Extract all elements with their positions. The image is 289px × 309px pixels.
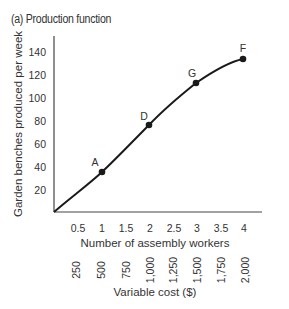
cost-tick: 1,250 <box>167 257 179 283</box>
production-curve <box>54 59 243 212</box>
x-tick: 4 <box>241 222 247 234</box>
cost-tick: 2,000 <box>239 257 251 283</box>
point-f-marker <box>240 56 247 63</box>
y-tick: 60 <box>34 138 46 150</box>
y-tick: 140 <box>28 46 46 58</box>
x-tick: 0.5 <box>71 222 86 234</box>
point-f-label: F <box>240 42 246 54</box>
variable-cost-tick-labels: 250 500 750 1,000 1,250 1,500 1,750 2,00… <box>70 257 251 283</box>
point-g-marker <box>193 80 200 87</box>
y-tick: 80 <box>34 115 46 127</box>
secondary-x-axis-label: Variable cost ($) <box>114 286 197 298</box>
point-g-label: G <box>188 67 196 79</box>
x-tick: 1.5 <box>119 222 134 234</box>
x-tick: 1 <box>99 222 105 234</box>
y-tick: 20 <box>34 184 46 196</box>
y-axis-label: Garden benches produced per week <box>12 31 24 217</box>
cost-tick: 250 <box>70 261 82 279</box>
x-axis-label: Number of assembly workers <box>81 237 230 249</box>
cost-tick: 750 <box>120 261 132 279</box>
cost-tick: 1,000 <box>144 257 156 283</box>
cost-tick: 500 <box>95 261 107 279</box>
x-tick: 2.5 <box>167 222 182 234</box>
y-tick: 40 <box>34 161 46 173</box>
x-tick: 3.5 <box>214 222 229 234</box>
point-d-marker <box>146 122 153 129</box>
y-tick-labels: 20 40 60 80 100 120 140 <box>28 46 46 196</box>
x-tick: 2 <box>147 222 153 234</box>
point-a-marker <box>99 169 106 176</box>
x-tick-labels: 0.5 1 1.5 2 2.5 3 3.5 4 <box>71 222 247 234</box>
point-a-label: A <box>91 156 98 168</box>
x-tick: 3 <box>194 222 200 234</box>
y-tick: 100 <box>28 92 46 104</box>
y-tick: 120 <box>28 69 46 81</box>
point-d-label: D <box>140 110 148 122</box>
production-function-chart: Garden benches produced per week 20 40 6… <box>0 0 289 309</box>
cost-tick: 1,500 <box>191 257 203 283</box>
cost-tick: 1,750 <box>215 257 227 283</box>
